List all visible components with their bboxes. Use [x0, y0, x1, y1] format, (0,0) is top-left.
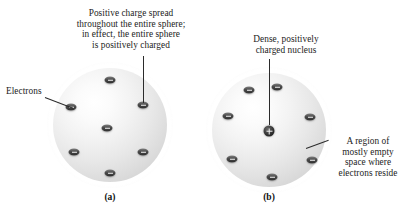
- annotation-empty-space: A region of mostly empty space where ele…: [329, 136, 407, 178]
- electron-glyph: [272, 84, 283, 91]
- electron-glyph: [105, 77, 116, 84]
- electron-glyph: [227, 156, 238, 163]
- electron-glyph: [102, 125, 113, 132]
- atomic-models-figure: Positive charge spread throughout the en…: [0, 0, 409, 220]
- electron-glyph: [69, 149, 80, 156]
- caption-panel-a: (a): [85, 192, 135, 202]
- caption-panel-b: (b): [244, 192, 294, 202]
- electron-glyph: [105, 170, 116, 177]
- annotation-electrons: Electrons: [6, 86, 64, 97]
- annotation-dense-nucleus: Dense, positively charged nucleus: [222, 34, 350, 55]
- annotation-positive-charge-spread: Positive charge spread throughout the en…: [42, 8, 220, 50]
- electron-glyph: [267, 174, 278, 181]
- electron-glyph: [138, 149, 149, 156]
- electron-glyph: [244, 87, 255, 94]
- leader-line-positive-charge: [143, 56, 144, 103]
- nucleus-glyph: [264, 126, 275, 137]
- electron-glyph: [307, 157, 318, 164]
- leader-line-nucleus: [269, 59, 270, 125]
- electron-glyph: [305, 114, 316, 121]
- electron-glyph: [223, 113, 234, 120]
